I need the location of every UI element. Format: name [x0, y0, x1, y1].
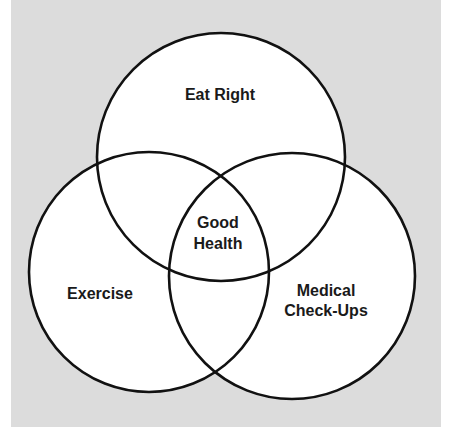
label-health: Health [194, 235, 243, 252]
label-exercise: Exercise [67, 285, 133, 302]
label-eat-right: Eat Right [185, 86, 256, 103]
label-check-ups: Check-Ups [284, 302, 368, 319]
label-good: Good [197, 214, 239, 231]
label-medical: Medical [297, 282, 356, 299]
venn-diagram: Eat Right Exercise Medical Check-Ups Goo… [0, 0, 450, 427]
